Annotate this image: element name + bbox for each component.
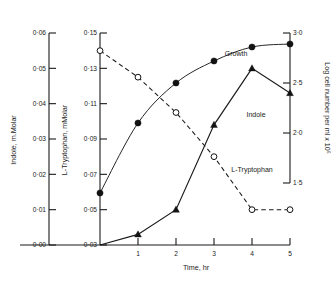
- indole-series-label: Indole: [246, 111, 265, 118]
- data-point: [135, 231, 142, 237]
- growth-series-label: Growth: [225, 50, 248, 57]
- growth-axis-title: Log cell number per ml x 10⁶: [323, 62, 332, 154]
- tryptophan-tick-label: 0·15: [84, 29, 98, 36]
- indole-tick-label: 0·00: [33, 241, 47, 248]
- series-l-tryptophan: [97, 48, 293, 213]
- series-line: [100, 68, 290, 245]
- tryptophan-axis-title: L-Tryptophan, mMolar: [60, 104, 69, 175]
- x-tick-label: 5: [288, 250, 292, 257]
- growth-tick-label: 2·0: [293, 129, 303, 136]
- data-point: [287, 89, 294, 95]
- growth-axis-ticks: 1·52·02·53·0: [283, 29, 303, 186]
- tryptophan-tick-label: 0·07: [84, 171, 98, 178]
- tryptophan-axis-ticks: 0·030·050·070·090·110·130·15: [84, 29, 107, 248]
- tryptophan-tick-label: 0·05: [84, 206, 98, 213]
- data-point: [173, 80, 179, 86]
- indole-axis-title: Indole, m.Molar: [9, 115, 18, 165]
- data-series-layer: [97, 41, 294, 245]
- indole-tick-label: 0·04: [33, 100, 47, 107]
- tryptophan-tick-label: 0·03: [84, 241, 98, 248]
- indole-tick-label: 0·01: [33, 206, 47, 213]
- data-point: [287, 207, 293, 213]
- x-axis-ticks: 12345: [136, 238, 292, 257]
- growth-axis: 1·52·02·53·0 Log cell number per ml x 10…: [283, 29, 332, 186]
- x-tick-label: 4: [250, 250, 254, 257]
- x-tick-label: 2: [174, 250, 178, 257]
- data-point: [211, 154, 217, 160]
- indole-tick-label: 0·06: [33, 29, 47, 36]
- x-axis-title: Time, hr: [183, 263, 210, 272]
- x-axis: 12345 Time, hr: [20, 238, 292, 272]
- data-point: [249, 44, 255, 50]
- tryptophan-tick-label: 0·13: [84, 65, 98, 72]
- tryptophan-tick-label: 0·09: [84, 135, 98, 142]
- data-point: [249, 207, 255, 213]
- tryptophan-axis: 0·030·050·070·090·110·130·15 L-Tryptopha…: [60, 29, 107, 248]
- chart-figure: 12345 Time, hr 0·000·010·020·030·040·050…: [0, 0, 336, 284]
- data-point: [173, 110, 179, 116]
- series-indole: [100, 65, 293, 245]
- indole-axis-ticks: 0·000·010·020·030·040·050·06: [33, 29, 56, 248]
- growth-tick-label: 3·0: [293, 29, 303, 36]
- indole-tick-label: 0·02: [33, 171, 47, 178]
- data-point: [249, 65, 256, 71]
- x-tick-label: 3: [212, 250, 216, 257]
- tryptophan-tick-label: 0·11: [84, 100, 97, 107]
- indole-tick-label: 0·05: [33, 65, 47, 72]
- data-point: [287, 41, 293, 47]
- data-point: [135, 120, 141, 126]
- data-point: [173, 206, 180, 212]
- tryptophan-series-label: L-Tryptophan: [231, 166, 272, 174]
- growth-tick-label: 1·5: [293, 179, 303, 186]
- chart-svg: 12345 Time, hr 0·000·010·020·030·040·050…: [0, 0, 336, 284]
- x-tick-label: 1: [136, 250, 140, 257]
- indole-axis: 0·000·010·020·030·040·050·06 Indole, m.M…: [9, 29, 56, 248]
- growth-tick-label: 2·5: [293, 79, 303, 86]
- data-point: [211, 58, 217, 64]
- indole-tick-label: 0·03: [33, 135, 47, 142]
- data-point: [97, 48, 103, 54]
- data-point: [97, 190, 103, 196]
- data-point: [135, 74, 141, 80]
